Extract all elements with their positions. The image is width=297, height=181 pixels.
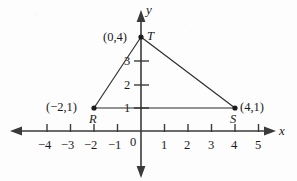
y-axis-up-arrow-icon [137, 10, 146, 22]
point-label-T-name: T [147, 30, 154, 43]
point-label-S-name: S [230, 113, 236, 126]
x-tick-label-minus1: −1 [108, 139, 121, 152]
vertex-point-T [138, 34, 143, 39]
coordinate-plane-svg [0, 0, 297, 181]
y-tick-label-1: 1 [124, 102, 130, 115]
x-axis-left-arrow-icon [10, 127, 22, 136]
x-tick-label-5: 5 [255, 139, 261, 152]
x-tick-label-3: 3 [208, 139, 214, 152]
segment-ST [141, 37, 235, 108]
y-axis-down-arrow-icon [137, 166, 146, 178]
x-tick-label-minus2: −2 [84, 139, 97, 152]
point-label-R-coords: (−2,1) [46, 101, 77, 114]
origin-label: 0 [130, 136, 136, 149]
x-tick-label-1: 1 [161, 139, 167, 152]
x-tick-label-minus3: −3 [61, 139, 74, 152]
y-tick-label-2: 2 [124, 79, 130, 92]
x-tick-label-4: 4 [231, 139, 237, 152]
point-label-S-coords: (4,1) [240, 101, 264, 114]
point-label-R-name: R [89, 113, 97, 126]
y-axis-label: y [146, 3, 152, 16]
x-axis-label: x [279, 124, 285, 137]
segment-TR [94, 37, 141, 108]
triangle-outline [94, 37, 235, 108]
vertex-point-S [232, 105, 237, 110]
x-tick-label-minus4: −4 [38, 139, 51, 152]
y-tick-label-3: 3 [124, 55, 130, 68]
vertex-point-R [91, 105, 96, 110]
x-axis-right-arrow-icon [264, 127, 276, 136]
point-label-T-coords: (0,4) [103, 31, 127, 44]
coordinate-plane-figure: x y 0 −4 −3 −2 −1 1 2 3 4 5 1 2 3 (0,4) … [0, 0, 297, 181]
x-tick-label-2: 2 [184, 139, 190, 152]
